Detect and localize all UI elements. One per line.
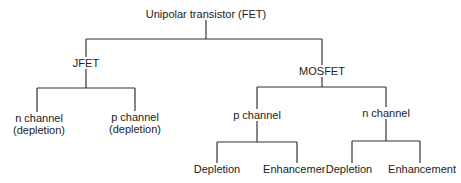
node-n-depletion: Depletion (325, 163, 373, 175)
node-root: Unipolar transistor (FET) (145, 8, 267, 20)
node-jfet-p-channel: p channel (depletion) (108, 111, 162, 135)
connector-lines (0, 0, 461, 183)
node-jfet: JFET (72, 57, 100, 69)
node-n-enhancement: Enhancement (387, 163, 457, 175)
node-jfet-p-channel-line1: p channel (109, 111, 161, 123)
node-mosfet-p-channel: p channel (232, 109, 282, 121)
node-jfet-n-channel-line2: (depletion) (13, 124, 65, 136)
node-p-depletion: Depletion (193, 163, 241, 175)
node-jfet-n-channel-line1: n channel (13, 112, 65, 124)
node-jfet-p-channel-line2: (depletion) (109, 123, 161, 135)
node-p-enhancement: Enhancement (262, 163, 332, 175)
node-mosfet-n-channel: n channel (361, 107, 411, 119)
node-jfet-n-channel: n channel (depletion) (12, 112, 66, 136)
node-mosfet: MOSFET (298, 65, 346, 77)
